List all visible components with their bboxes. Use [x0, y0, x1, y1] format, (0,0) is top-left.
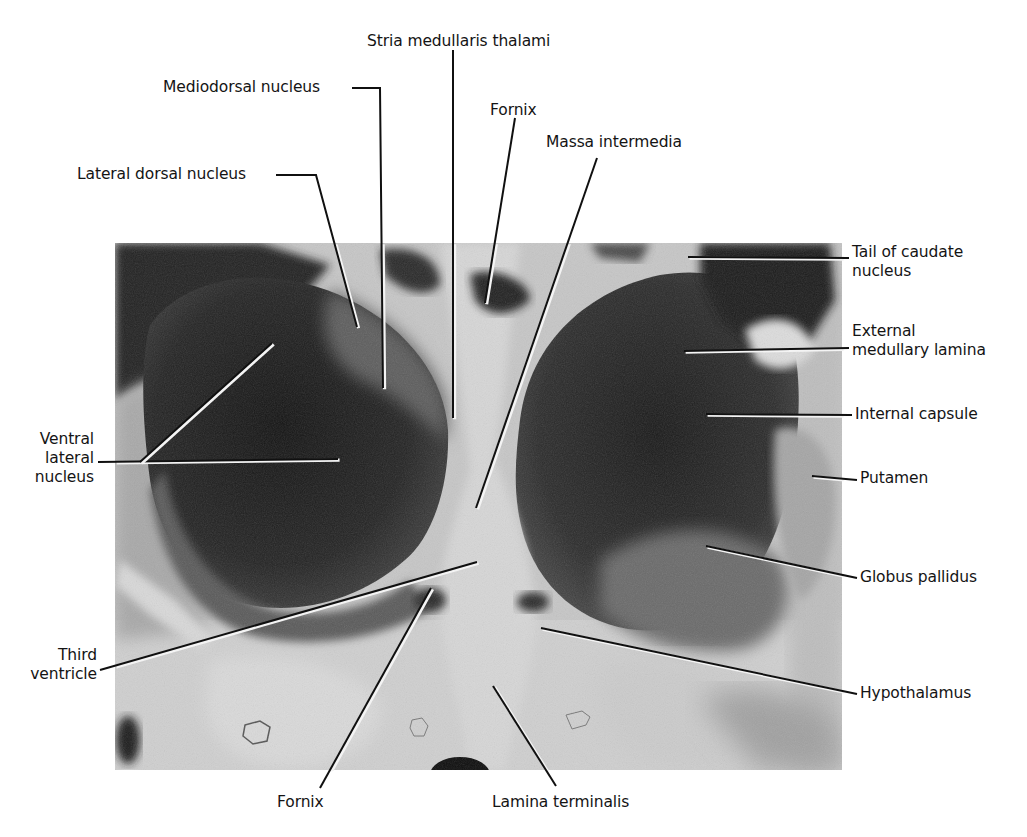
label-line: Mediodorsal nucleus	[163, 78, 320, 97]
label-line: lateral	[20, 449, 94, 468]
leader-massa-intermedia	[476, 158, 599, 509]
label-lamina-terminalis: Lamina terminalis	[492, 793, 629, 812]
label-line: ventricle	[20, 665, 97, 684]
label-line: Lateral dorsal nucleus	[77, 165, 246, 184]
leader-internal-capsule	[706, 414, 854, 416]
label-globus-pallidus: Globus pallidus	[860, 568, 977, 587]
label-lateral-dorsal-nucleus: Lateral dorsal nucleus	[77, 165, 246, 184]
label-tail-of-caudate-nucleus: Tail of caudatenucleus	[852, 243, 963, 281]
label-line: Globus pallidus	[860, 568, 977, 587]
leader-ventral-lateral-nucleus-b	[140, 343, 274, 463]
label-line: Putamen	[860, 469, 928, 488]
label-fornix-bottom: Fornix	[277, 793, 324, 812]
label-line: Fornix	[277, 793, 324, 812]
label-line: Ventral	[20, 430, 94, 449]
leader-putamen	[812, 476, 859, 481]
leader-globus-pallidus	[706, 546, 859, 579]
leader-fornix-bottom	[320, 588, 433, 789]
label-hypothalamus: Hypothalamus	[860, 684, 971, 703]
label-stria-medullaris-thalami: Stria medullaris thalami	[367, 32, 550, 51]
anatomical-figure: Stria medullaris thalami Mediodorsal nuc…	[0, 0, 1027, 837]
label-line: Tail of caudate	[852, 243, 963, 262]
label-line: Massa intermedia	[546, 133, 682, 152]
leader-lateral-dorsal-nucleus	[276, 175, 359, 328]
leader-stria-medullaris-thalami	[453, 50, 455, 419]
label-line: Lamina terminalis	[492, 793, 629, 812]
label-line: medullary lamina	[852, 341, 986, 360]
leader-third-ventricle	[100, 562, 479, 671]
label-external-medullary-lamina: Externalmedullary lamina	[852, 322, 986, 360]
label-line: External	[852, 322, 986, 341]
label-third-ventricle: Thirdventricle	[20, 646, 97, 684]
leader-external-medullary-lamina	[684, 348, 851, 352]
label-line: nucleus	[852, 262, 963, 281]
label-mediodorsal-nucleus: Mediodorsal nucleus	[163, 78, 320, 97]
label-line: Stria medullaris thalami	[367, 32, 550, 51]
label-fornix-top: Fornix	[490, 101, 537, 120]
label-internal-capsule: Internal capsule	[855, 405, 978, 424]
label-massa-intermedia: Massa intermedia	[546, 133, 682, 152]
leader-mediodorsal-nucleus	[352, 88, 385, 389]
label-putamen: Putamen	[860, 469, 928, 488]
leader-ventral-lateral-nucleus-a	[98, 459, 340, 463]
label-line: Hypothalamus	[860, 684, 971, 703]
leader-tail-of-caudate-nucleus	[688, 257, 851, 259]
leader-hypothalamus	[541, 628, 859, 695]
label-line: Third	[20, 646, 97, 665]
label-line: Fornix	[490, 101, 537, 120]
label-ventral-lateral-nucleus: Ventrallateralnucleus	[20, 430, 94, 487]
leader-lamina-terminalis	[493, 686, 558, 787]
label-line: nucleus	[20, 468, 94, 487]
label-line: Internal capsule	[855, 405, 978, 424]
leader-fornix-top	[485, 118, 517, 304]
